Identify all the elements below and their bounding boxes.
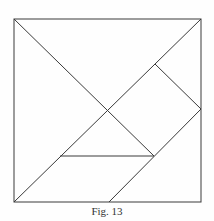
diagonal-tl-to-center [14,19,154,156]
figure-caption: Fig. 13 [0,205,214,217]
tangram-lines [14,19,201,202]
tangram-diagram [0,0,214,221]
square-piece-upper-edge [155,64,201,109]
